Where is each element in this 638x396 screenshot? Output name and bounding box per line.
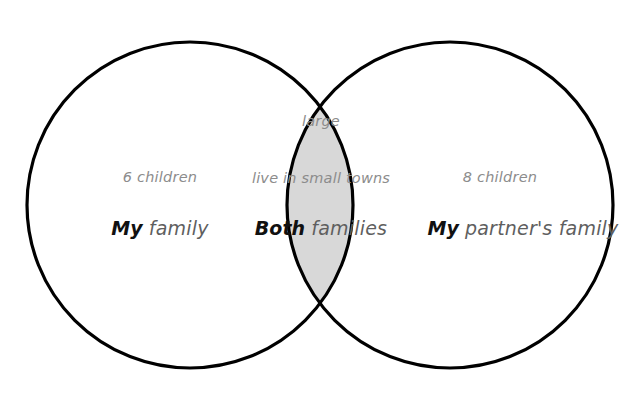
intersection-region-fill	[287, 42, 613, 368]
venn-diagram: 6 children My family large live in small…	[0, 0, 638, 396]
venn-circles-graphic	[0, 0, 638, 396]
